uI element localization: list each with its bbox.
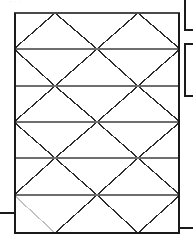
panel-fragment-lower bbox=[185, 44, 193, 96]
brace bbox=[138, 86, 180, 122]
brace-faded bbox=[14, 195, 55, 233]
brace bbox=[55, 86, 97, 122]
brace bbox=[97, 158, 138, 195]
cross-bracing bbox=[14, 13, 180, 233]
structural-elevation-drawing bbox=[0, 0, 193, 239]
brace bbox=[138, 49, 180, 86]
brace bbox=[55, 158, 97, 195]
brace bbox=[55, 122, 97, 158]
brace bbox=[97, 122, 138, 158]
brace bbox=[14, 86, 55, 122]
brace bbox=[55, 49, 97, 86]
brace bbox=[14, 13, 55, 49]
brace bbox=[55, 13, 97, 49]
brace bbox=[138, 122, 180, 158]
tie-lines bbox=[0, 213, 193, 228]
brace bbox=[14, 49, 55, 86]
brace bbox=[97, 195, 138, 233]
right-panel-fragments bbox=[185, 0, 193, 96]
faint-header-text: ' ' ' bbox=[10, 0, 22, 6]
brace bbox=[14, 158, 55, 195]
brace bbox=[14, 122, 55, 158]
drawing-canvas: ' ' ' bbox=[0, 0, 193, 239]
brace bbox=[97, 86, 138, 122]
brace bbox=[138, 195, 180, 233]
brace bbox=[138, 13, 180, 49]
brace bbox=[55, 195, 97, 233]
panel-fragment-upper bbox=[185, 0, 193, 30]
brace bbox=[97, 49, 138, 86]
brace bbox=[138, 158, 180, 195]
brace bbox=[97, 13, 138, 49]
outer-frame bbox=[14, 13, 180, 233]
